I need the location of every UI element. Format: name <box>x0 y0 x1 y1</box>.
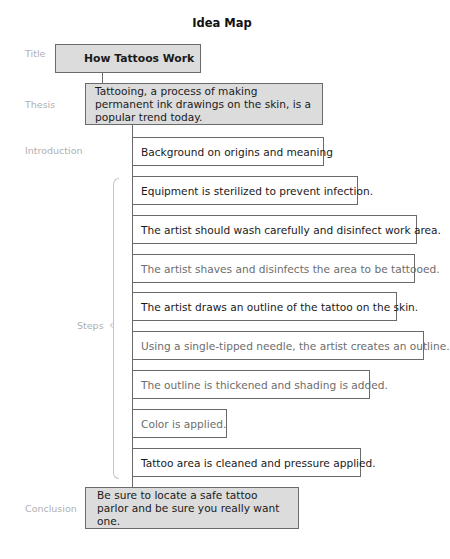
step-box-7: Color is applied. <box>132 409 227 438</box>
label-steps: Steps <box>77 320 104 331</box>
label-introduction: Introduction <box>25 145 83 156</box>
step-box-5: Using a single-tipped needle, the artist… <box>132 331 424 360</box>
label-thesis: Thesis <box>25 99 55 110</box>
conclusion-box: Be sure to locate a safe tattoo parlor a… <box>85 487 299 529</box>
step-box-2: The artist should wash carefully and dis… <box>132 215 417 244</box>
step-text: The artist draws an outline of the tatto… <box>141 301 418 313</box>
thesis-text: Tattooing, a process of making permanent… <box>95 85 314 124</box>
step-text: The outline is thickened and shading is … <box>141 379 388 391</box>
page-title: Idea Map <box>0 16 444 30</box>
label-title: Title <box>25 48 45 59</box>
step-box-3: The artist shaves and disinfects the are… <box>132 254 415 283</box>
step-text: Tattoo area is cleaned and pressure appl… <box>141 457 376 469</box>
step-box-4: The artist draws an outline of the tatto… <box>132 292 397 321</box>
introduction-text: Background on origins and meaning <box>141 146 333 158</box>
conclusion-text: Be sure to locate a safe tattoo parlor a… <box>97 489 290 528</box>
step-box-8: Tattoo area is cleaned and pressure appl… <box>132 448 361 477</box>
step-text: Color is applied. <box>141 418 226 430</box>
step-text: The artist shaves and disinfects the are… <box>141 263 440 275</box>
label-conclusion: Conclusion <box>25 503 77 514</box>
introduction-box: Background on origins and meaning <box>132 137 324 166</box>
title-text: How Tattoos Work <box>84 52 194 65</box>
steps-bracket <box>113 178 119 479</box>
bracket-tip-icon: ‹ <box>109 318 114 332</box>
step-text: The artist should wash carefully and dis… <box>141 224 441 236</box>
step-box-6: The outline is thickened and shading is … <box>132 370 370 399</box>
step-text: Equipment is sterilized to prevent infec… <box>141 185 373 197</box>
step-box-1: Equipment is sterilized to prevent infec… <box>132 176 358 205</box>
thesis-box: Tattooing, a process of making permanent… <box>85 83 323 125</box>
title-box: How Tattoos Work <box>55 44 201 73</box>
step-text: Using a single-tipped needle, the artist… <box>141 340 450 352</box>
connector-title-thesis <box>102 73 103 83</box>
